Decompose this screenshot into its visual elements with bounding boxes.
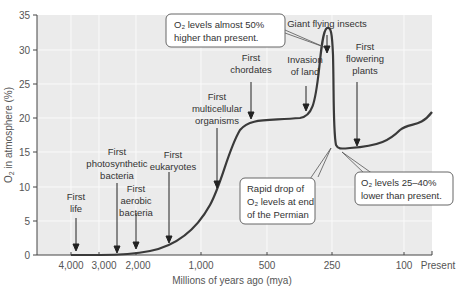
svg-text:5: 5 xyxy=(24,216,30,227)
svg-text:First: First xyxy=(164,149,183,160)
svg-text:0: 0 xyxy=(24,250,30,261)
svg-text:lower than present.: lower than present. xyxy=(361,190,442,201)
svg-text:3,000: 3,000 xyxy=(91,260,116,271)
svg-text:10: 10 xyxy=(19,182,31,193)
svg-text:Rapid drop of: Rapid drop of xyxy=(247,183,304,194)
svg-text:15: 15 xyxy=(19,147,31,158)
svg-text:4,000: 4,000 xyxy=(58,260,83,271)
svg-text:flowering: flowering xyxy=(346,53,384,64)
svg-text:25: 25 xyxy=(19,79,31,90)
svg-text:organisms: organisms xyxy=(195,115,239,126)
svg-text:O₂ levels 25–40%: O₂ levels 25–40% xyxy=(361,177,437,188)
svg-text:Present: Present xyxy=(421,260,456,271)
svg-text:O₂ levels at end: O₂ levels at end xyxy=(247,196,314,207)
x-axis-label: Millions of years ago (mya) xyxy=(172,275,291,286)
svg-text:250: 250 xyxy=(324,260,341,271)
svg-text:First: First xyxy=(127,183,146,194)
o2-history-chart: 35 30 25 20 15 10 5 0 4,000 3,000 2,000 … xyxy=(0,0,457,288)
svg-text:of land: of land xyxy=(291,66,320,77)
svg-text:eukaryotes: eukaryotes xyxy=(150,161,197,172)
svg-text:First: First xyxy=(208,91,227,102)
x-tick-labels: 4,000 3,000 2,000 1,000 500 250 100 Pres… xyxy=(58,260,455,271)
svg-text:First: First xyxy=(242,52,261,63)
svg-text:of the Permian: of the Permian xyxy=(247,209,309,220)
svg-text:35: 35 xyxy=(19,10,31,21)
svg-text:higher than present.: higher than present. xyxy=(174,32,259,43)
svg-text:First: First xyxy=(108,146,127,157)
svg-text:500: 500 xyxy=(259,260,276,271)
svg-text:2,000: 2,000 xyxy=(125,260,150,271)
svg-text:30: 30 xyxy=(19,45,31,56)
svg-text:Giant flying insects: Giant flying insects xyxy=(287,18,367,29)
svg-text:bacteria: bacteria xyxy=(100,170,135,181)
y-axis-label: O2 in atmosphere (%) xyxy=(3,87,15,183)
svg-text:20: 20 xyxy=(19,113,31,124)
svg-text:100: 100 xyxy=(396,260,413,271)
svg-text:First: First xyxy=(67,191,86,202)
svg-text:photosynthetic: photosynthetic xyxy=(86,158,148,169)
y-tick-labels: 35 30 25 20 15 10 5 0 xyxy=(19,10,31,261)
svg-text:life: life xyxy=(70,203,82,214)
svg-text:multicellular: multicellular xyxy=(192,103,242,114)
svg-text:chordates: chordates xyxy=(230,64,272,75)
svg-text:O₂ levels almost 50%: O₂ levels almost 50% xyxy=(174,19,265,30)
svg-text:Invasion: Invasion xyxy=(287,54,322,65)
svg-text:1,000: 1,000 xyxy=(188,260,213,271)
svg-text:aerobic: aerobic xyxy=(120,195,151,206)
svg-text:First: First xyxy=(356,41,375,52)
svg-text:plants: plants xyxy=(352,65,378,76)
svg-text:bacteria: bacteria xyxy=(119,207,154,218)
